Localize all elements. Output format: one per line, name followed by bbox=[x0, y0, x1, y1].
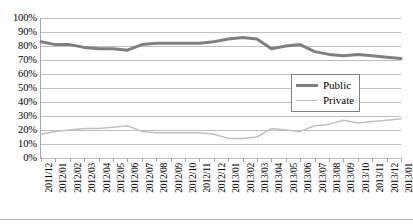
x-tick bbox=[315, 158, 316, 162]
legend-label-private: Private bbox=[323, 95, 354, 106]
y-tick-label: 100% bbox=[13, 13, 37, 24]
x-tick bbox=[329, 158, 330, 162]
y-tick-label: 70% bbox=[18, 55, 37, 66]
y-tick-label: 10% bbox=[18, 139, 37, 150]
x-tick-label: 2013/07 bbox=[319, 163, 329, 193]
x-tick-label: 2013/12 bbox=[391, 163, 401, 193]
legend-item-public[interactable]: Public bbox=[296, 78, 354, 93]
y-tick-label: 20% bbox=[18, 125, 37, 136]
page-bottom-rule bbox=[0, 219, 413, 220]
y-tick-label: 30% bbox=[18, 111, 37, 122]
x-tick bbox=[199, 158, 200, 162]
y-tick-label: 90% bbox=[18, 27, 37, 38]
x-tick bbox=[271, 158, 272, 162]
legend-line-icon-public bbox=[296, 84, 318, 87]
series-line-public bbox=[41, 38, 401, 59]
x-axis: 2011/122012/012012/022012/032012/042012/… bbox=[41, 163, 401, 221]
y-tick-label: 60% bbox=[18, 69, 37, 80]
x-tick-label: 2013/06 bbox=[304, 163, 314, 193]
x-tick-label: 2012/08 bbox=[160, 163, 170, 193]
x-tick-label: 2013/04 bbox=[275, 163, 285, 193]
x-tick-label: 2012/03 bbox=[88, 163, 98, 193]
x-tick bbox=[142, 158, 143, 162]
x-tick-label: 2013/09 bbox=[347, 163, 357, 193]
y-axis: 100%90%80%70%60%50%40%30%20%10%0% bbox=[0, 18, 37, 158]
x-tick-label: 2013/08 bbox=[333, 163, 343, 193]
x-tick-label: 2013/11 bbox=[376, 163, 386, 192]
x-tick-label: 2013/10 bbox=[362, 163, 372, 193]
series-line-private bbox=[41, 119, 401, 139]
x-tick bbox=[372, 158, 373, 162]
x-tick bbox=[387, 158, 388, 162]
x-tick bbox=[214, 158, 215, 162]
x-tick-label: 2013/02 bbox=[247, 163, 257, 193]
x-tick bbox=[70, 158, 71, 162]
gridline bbox=[41, 158, 401, 159]
legend-label-public: Public bbox=[323, 80, 351, 91]
x-tick-label: 2012/07 bbox=[146, 163, 156, 193]
x-tick bbox=[156, 158, 157, 162]
x-tick-label: 2013/03 bbox=[261, 163, 271, 193]
x-tick-label: 2013/01 bbox=[405, 163, 413, 193]
y-tick-label: 80% bbox=[18, 41, 37, 52]
line-chart: 100%90%80%70%60%50%40%30%20%10%0% 2011/1… bbox=[0, 0, 413, 224]
x-tick-label: 2012/01 bbox=[59, 163, 69, 193]
legend-line-icon-private bbox=[296, 100, 318, 101]
y-tick-label: 40% bbox=[18, 97, 37, 108]
x-tick-label: 2013/05 bbox=[290, 163, 300, 193]
x-tick-label: 2012/11 bbox=[203, 163, 213, 192]
x-tick-label: 2012/02 bbox=[74, 163, 84, 193]
legend-item-private[interactable]: Private bbox=[296, 93, 354, 108]
x-tick bbox=[300, 158, 301, 162]
x-tick-label: 2012/06 bbox=[131, 163, 141, 193]
x-tick-label: 2012/05 bbox=[117, 163, 127, 193]
x-tick bbox=[55, 158, 56, 162]
x-tick bbox=[257, 158, 258, 162]
x-tick-label: 2012/10 bbox=[189, 163, 199, 193]
y-tick-label: 0% bbox=[23, 153, 37, 164]
x-tick bbox=[127, 158, 128, 162]
y-tick-label: 50% bbox=[18, 83, 37, 94]
x-tick bbox=[243, 158, 244, 162]
x-tick bbox=[84, 158, 85, 162]
x-tick-label: 2012/04 bbox=[103, 163, 113, 193]
x-tick bbox=[358, 158, 359, 162]
x-tick bbox=[286, 158, 287, 162]
x-tick-label: 2011/12 bbox=[45, 163, 55, 192]
x-tick bbox=[99, 158, 100, 162]
chart-legend: Public Private bbox=[291, 74, 360, 112]
x-tick bbox=[185, 158, 186, 162]
x-tick bbox=[401, 158, 402, 162]
x-tick bbox=[171, 158, 172, 162]
x-tick-label: 2012/09 bbox=[175, 163, 185, 193]
x-tick-label: 2013/01 bbox=[232, 163, 242, 193]
x-tick bbox=[228, 158, 229, 162]
x-tick bbox=[113, 158, 114, 162]
x-tick-label: 2012/12 bbox=[218, 163, 228, 193]
x-tick bbox=[343, 158, 344, 162]
x-tick bbox=[41, 158, 42, 162]
